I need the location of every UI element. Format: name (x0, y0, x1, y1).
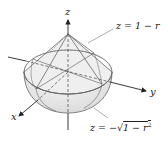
solid-region-figure: z y x z = 1 − r z = −√1 − r2 (0, 0, 168, 147)
x-axis-label: x (11, 112, 17, 122)
y-axis (110, 82, 146, 91)
hemisphere-equation-label: z = −√1 − r2 (90, 122, 151, 133)
z-axis-label: z (65, 7, 70, 17)
x-axis (19, 100, 38, 116)
cone-leader-line (88, 29, 113, 43)
cone-equation-label: z = 1 − r (116, 21, 160, 31)
y-axis-back (8, 57, 26, 61)
hemisphere-equation-radicand: 1 − r (123, 121, 148, 133)
hemisphere-equation-prefix: z = − (90, 122, 117, 133)
hemisphere-leader-line (94, 108, 108, 118)
y-axis-label: y (150, 87, 156, 97)
hemisphere-equation-exponent: 2 (148, 120, 152, 128)
